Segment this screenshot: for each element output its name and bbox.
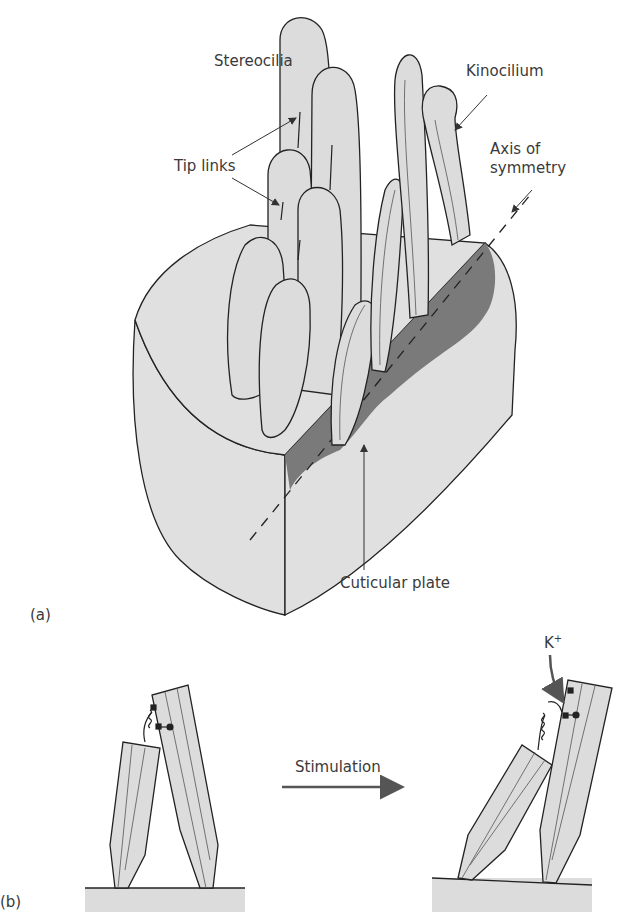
deflected-bundle: [432, 680, 612, 912]
cuticular-plate-label: Cuticular plate: [340, 574, 450, 592]
rest-state-bundle: [85, 685, 245, 912]
kinocilium-label: Kinocilium: [466, 62, 544, 80]
panel-b-label: (b): [0, 893, 21, 911]
k-ion-charge: +: [554, 633, 562, 644]
k-ion-symbol: K: [544, 634, 554, 652]
tip-links-label: Tip links: [174, 157, 236, 175]
stimulation-label: Stimulation: [295, 758, 381, 776]
stereocilia-label: Stereocilia: [214, 52, 293, 70]
axis-label-line2: symmetry: [490, 159, 566, 177]
k-ion-label: K+: [544, 630, 562, 652]
panel-a-label: (a): [30, 606, 51, 624]
axis-label-line1: Axis of: [490, 140, 540, 158]
k-ion-arrow: [550, 655, 562, 700]
